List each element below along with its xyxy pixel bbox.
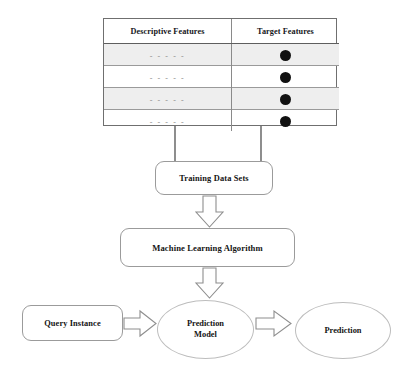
table-row: - - - - - xyxy=(104,44,339,66)
cell-target-features xyxy=(232,44,340,66)
filled-circle-icon xyxy=(280,94,291,105)
training-data-table: Descriptive Features Target Features - -… xyxy=(103,18,337,126)
dashes-placeholder: - - - - - xyxy=(150,75,186,83)
training-to-algorithm-arrow-icon xyxy=(196,196,223,227)
node-training-data-sets-label: Training Data Sets xyxy=(179,174,249,183)
cell-target-features xyxy=(232,88,340,110)
node-query-instance: Query Instance xyxy=(22,305,123,341)
training-data-table-grid: Descriptive Features Target Features - -… xyxy=(104,19,339,131)
cell-descriptive-features: - - - - - xyxy=(104,110,232,132)
query-to-prediction-model-arrow-icon xyxy=(124,311,156,336)
node-prediction-model: Prediction Model xyxy=(157,300,254,359)
dashes-placeholder: - - - - - xyxy=(150,97,186,105)
cell-descriptive-features: - - - - - xyxy=(104,88,232,110)
table-row: - - - - - xyxy=(104,88,339,110)
algorithm-to-prediction-model-arrow-icon xyxy=(196,268,223,298)
table-header: Descriptive Features Target Features xyxy=(104,19,339,44)
table-row: - - - - - xyxy=(104,110,339,132)
node-prediction-model-label-line2: Model xyxy=(187,330,224,341)
node-prediction-model-label-group: Prediction Model xyxy=(187,319,224,340)
table-header-row: Descriptive Features Target Features xyxy=(104,19,339,44)
node-machine-learning-algorithm: Machine Learning Algorithm xyxy=(120,228,295,267)
node-training-data-sets: Training Data Sets xyxy=(155,161,273,195)
column-header-target-features: Target Features xyxy=(232,19,340,44)
node-machine-learning-algorithm-label: Machine Learning Algorithm xyxy=(152,243,263,253)
filled-circle-icon xyxy=(280,72,291,83)
column-header-descriptive-features: Descriptive Features xyxy=(104,19,232,44)
table-row: - - - - - xyxy=(104,66,339,88)
cell-target-features xyxy=(232,110,340,132)
table-body: - - - - - - - - - - - - - xyxy=(104,44,339,132)
filled-circle-icon xyxy=(280,50,291,61)
node-prediction-model-label-line1: Prediction xyxy=(187,319,224,330)
cell-descriptive-features: - - - - - xyxy=(104,44,232,66)
node-query-instance-label: Query Instance xyxy=(44,319,101,328)
prediction-model-to-prediction-arrow-icon xyxy=(256,311,291,336)
dashes-placeholder: - - - - - xyxy=(150,119,186,127)
cell-descriptive-features: - - - - - xyxy=(104,66,232,88)
node-prediction-label: Prediction xyxy=(324,326,361,335)
filled-circle-icon xyxy=(280,116,291,127)
cell-target-features xyxy=(232,66,340,88)
dashes-placeholder: - - - - - xyxy=(150,53,186,61)
node-prediction: Prediction xyxy=(295,302,391,359)
diagram-canvas: Descriptive Features Target Features - -… xyxy=(0,0,403,368)
